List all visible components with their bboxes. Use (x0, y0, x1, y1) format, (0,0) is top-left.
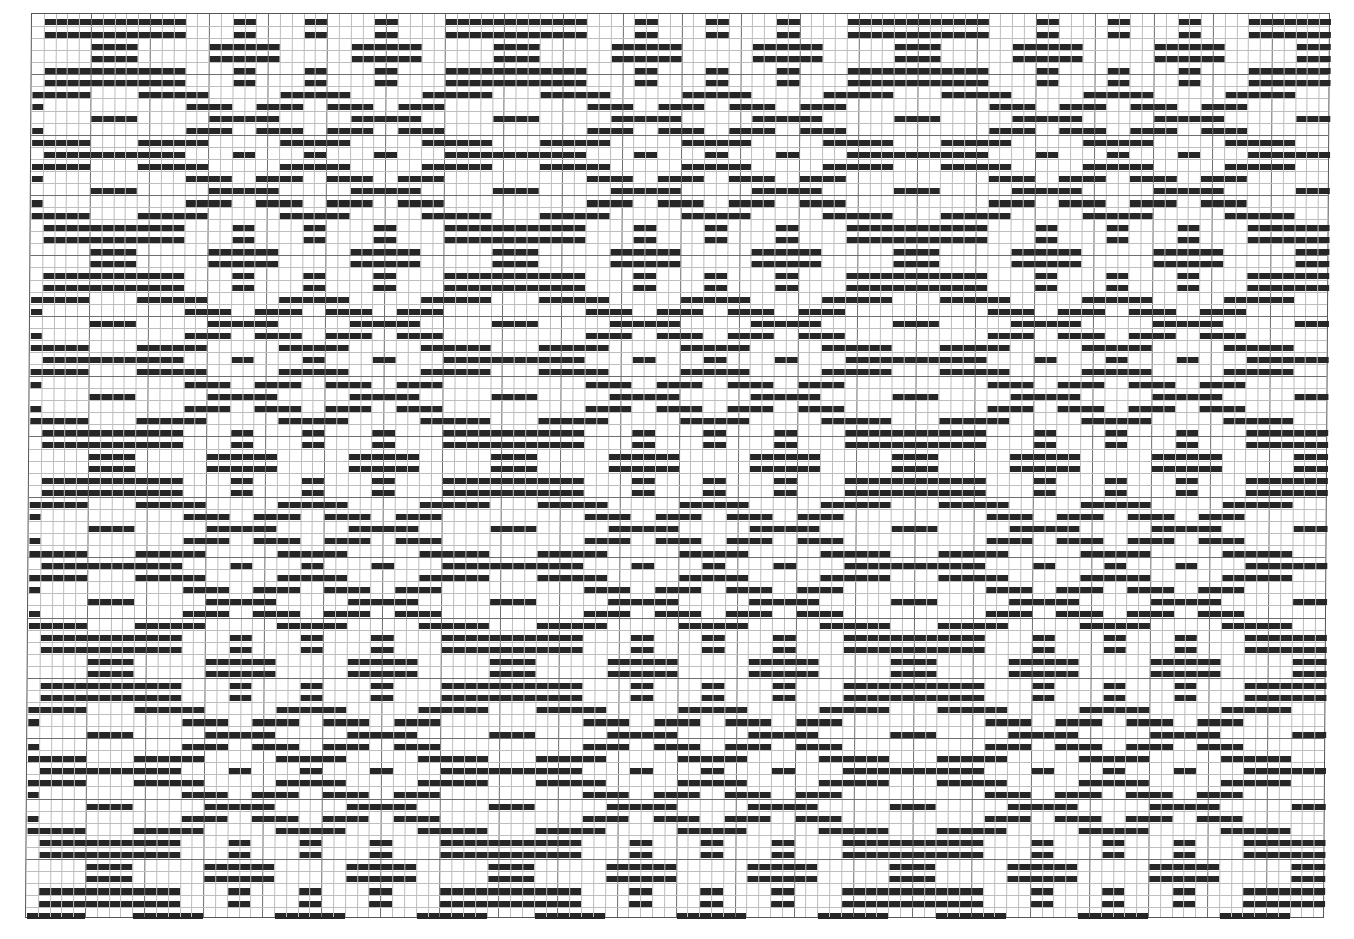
grid-line-horizontal (28, 557, 1325, 558)
weft-float (31, 345, 89, 351)
grid-line-horizontal (28, 605, 1325, 606)
grid-line-horizontal (32, 62, 1329, 63)
weft-float (1293, 526, 1327, 532)
weft-float (1293, 599, 1327, 605)
grid-line-horizontal (29, 449, 1326, 450)
weft-float (31, 369, 89, 375)
weft-float (1296, 44, 1330, 50)
grid-line-horizontal (31, 231, 1328, 232)
weft-float (28, 756, 86, 762)
grid-line-horizontal (28, 642, 1325, 643)
grid-line-horizontal (30, 316, 1327, 317)
weft-float (1295, 321, 1329, 327)
grid-line-horizontal (31, 219, 1328, 220)
weft-float (31, 382, 42, 388)
weft-float (1294, 394, 1328, 400)
grid-line-horizontal (30, 352, 1327, 353)
grid-line-horizontal (29, 485, 1326, 486)
grid-line-horizontal (28, 690, 1325, 691)
weft-float (32, 200, 43, 206)
weft-float (29, 551, 87, 557)
grid-line-horizontal (26, 859, 1323, 860)
weft-float (30, 418, 88, 424)
weft-float (28, 780, 86, 786)
grid-line-horizontal (29, 436, 1326, 437)
grid-line-horizontal (29, 521, 1326, 522)
grid-line-horizontal (29, 533, 1326, 534)
weft-float (28, 719, 39, 725)
weft-float (28, 744, 39, 750)
grid-line-horizontal (30, 340, 1327, 341)
grid-line-horizontal (27, 811, 1324, 812)
weft-float (32, 176, 43, 182)
weft-float (29, 575, 87, 581)
grid-line-horizontal (29, 461, 1326, 462)
grid-line-horizontal (28, 545, 1325, 546)
grid-line-horizontal (28, 654, 1325, 655)
grid-line-horizontal (27, 774, 1324, 775)
weaving-draft-grid (25, 13, 1330, 918)
grid-line-horizontal (30, 280, 1327, 281)
weft-float (32, 213, 90, 219)
weft-float (30, 514, 41, 520)
drawdown-cells (26, 14, 1329, 917)
weft-float (32, 128, 43, 134)
weft-float (30, 406, 41, 412)
grid-line-horizontal (31, 123, 1328, 124)
weft-float (28, 828, 86, 834)
grid-line-horizontal (26, 895, 1323, 896)
grid-line-horizontal (27, 786, 1324, 787)
weft-float (1295, 249, 1329, 255)
grid-line-horizontal (31, 111, 1328, 112)
weft-float (28, 816, 39, 822)
grid-line-horizontal (32, 26, 1329, 27)
grid-line-horizontal (29, 509, 1326, 510)
grid-line-horizontal (27, 738, 1324, 739)
weft-float (1292, 671, 1326, 677)
weft-float (29, 538, 40, 544)
weft-float (32, 164, 90, 170)
grid-line-horizontal (29, 412, 1326, 413)
grid-line-horizontal (27, 702, 1324, 703)
weft-float (1295, 261, 1329, 267)
grid-line-horizontal (30, 292, 1327, 293)
weft-float (31, 309, 42, 315)
grid-line-horizontal (30, 376, 1327, 377)
grid-line-horizontal (30, 267, 1327, 268)
weft-float (32, 104, 43, 110)
weft-float (1291, 864, 1325, 870)
grid-line-horizontal (30, 388, 1327, 389)
grid-line-horizontal (32, 50, 1329, 51)
grid-line-horizontal (27, 835, 1324, 836)
weft-float (28, 707, 86, 713)
grid-line-horizontal (30, 255, 1327, 256)
weft-float (1294, 466, 1328, 472)
grid-line-horizontal (29, 424, 1326, 425)
grid-line-horizontal (32, 74, 1329, 75)
weft-float (1291, 804, 1325, 810)
grid-line-horizontal (31, 171, 1328, 172)
grid-line-horizontal (31, 195, 1328, 196)
weft-float (27, 913, 85, 919)
grid-line-horizontal (29, 400, 1326, 401)
grid-line-horizontal (30, 243, 1327, 244)
grid-line-horizontal (31, 147, 1328, 148)
weft-float (1296, 116, 1330, 122)
weft-float (31, 297, 89, 303)
grid-line-horizontal (32, 38, 1329, 39)
grid-line-horizontal (30, 364, 1327, 365)
grid-line-horizontal (31, 183, 1328, 184)
weft-float (29, 623, 87, 629)
grid-line-horizontal (31, 98, 1328, 99)
grid-line-horizontal (28, 569, 1325, 570)
grid-line-horizontal (28, 618, 1325, 619)
grid-line-horizontal (32, 86, 1329, 87)
weft-float (1294, 454, 1328, 460)
weft-float (1292, 732, 1326, 738)
grid-line-horizontal (26, 883, 1323, 884)
grid-line-horizontal (27, 726, 1324, 727)
grid-line-horizontal (28, 678, 1325, 679)
grid-line-horizontal (28, 666, 1325, 667)
grid-line-horizontal (31, 159, 1328, 160)
grid-line-horizontal (29, 473, 1326, 474)
